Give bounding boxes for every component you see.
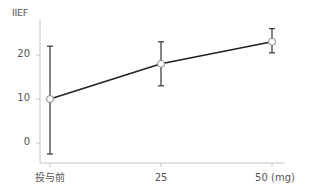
plot-area [0, 0, 316, 194]
x-tick-label-baseline: 投与前 [26, 173, 74, 183]
y-tick-label-0: 0 [4, 137, 30, 147]
x-tick-marks [50, 163, 272, 167]
data-point-marker [158, 60, 165, 67]
x-tick-label-25: 25 [150, 173, 172, 183]
y-axis-label: IIEF [12, 8, 28, 18]
data-point-marker [269, 38, 276, 45]
y-tick-marks [36, 55, 40, 143]
data-point-marker [47, 96, 54, 103]
x-tick-label-50mg: 50 (mg) [252, 173, 298, 183]
chart-container: IIEF 20 10 0 投与前 25 50 (mg) [0, 0, 316, 194]
y-tick-label-10: 10 [4, 93, 30, 103]
y-tick-label-20: 20 [4, 49, 30, 59]
